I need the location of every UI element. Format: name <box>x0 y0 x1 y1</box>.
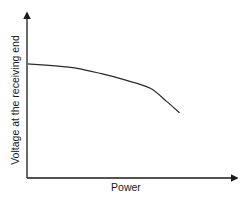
x-axis-label: Power <box>0 181 252 193</box>
voltage-curve <box>28 64 180 113</box>
y-axis-label: Voltage at the receiving end <box>9 35 21 165</box>
chart <box>0 0 252 210</box>
